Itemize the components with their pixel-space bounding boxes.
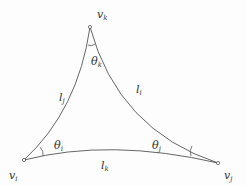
angle-arc-theta-j [190, 146, 192, 156]
label-theta-i-sub: i [61, 145, 63, 153]
label-lk-sub: k [105, 165, 109, 173]
curved-triangle-diagram: vk θk lj li θi θj lk vi vj [0, 0, 246, 186]
label-vj: vj [224, 170, 232, 183]
label-theta-j-main: θ [152, 139, 159, 152]
label-theta-k: θk [91, 56, 102, 69]
label-theta-k-sub: k [98, 61, 102, 69]
label-theta-i: θi [54, 140, 63, 153]
label-vi-sub: i [15, 175, 17, 183]
label-theta-j: θj [152, 140, 161, 153]
label-lj-sub: j [63, 97, 65, 105]
vertex-vk-dot [88, 25, 91, 28]
diagram-graphics [0, 0, 246, 186]
label-theta-i-main: θ [54, 139, 61, 152]
label-li: li [136, 84, 142, 97]
label-li-sub: i [140, 89, 142, 97]
angle-arc-theta-i [40, 147, 43, 156]
vertex-vj-dot [216, 161, 219, 164]
label-theta-j-sub: j [159, 145, 161, 153]
vertex-vi-dot [22, 158, 25, 161]
angle-arc-theta-k [88, 44, 95, 46]
label-lj: lj [59, 92, 65, 105]
label-lk: lk [101, 160, 109, 173]
label-vi: vi [9, 170, 17, 183]
label-theta-k-main: θ [91, 55, 98, 68]
label-vj-sub: j [230, 175, 232, 183]
label-vk-sub: k [103, 14, 107, 22]
label-vk: vk [97, 9, 107, 22]
